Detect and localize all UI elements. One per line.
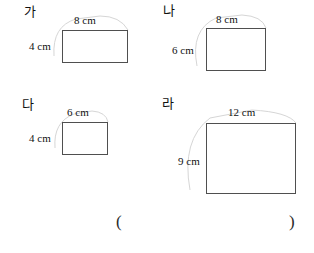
- figure-ra-label: 라: [162, 97, 174, 111]
- figure-na-rectangle: [206, 28, 266, 71]
- answer-blank-open-paren: (: [116, 213, 122, 231]
- figure-da-label: 다: [22, 98, 34, 112]
- figure-ga-width-label: 8 cm: [74, 14, 96, 26]
- figure-ga-height-label: 4 cm: [29, 40, 51, 52]
- worksheet-page: 가 8 cm 4 cm 나 8 cm 6 cm 다 6 cm 4 cm 라 12…: [0, 0, 314, 253]
- figure-ra-height-label: 9 cm: [178, 155, 200, 167]
- figure-da-width-label: 6 cm: [67, 106, 89, 118]
- figure-na-label: 나: [163, 4, 175, 18]
- figure-na-width-label: 8 cm: [216, 13, 238, 25]
- answer-blank-close-paren: ): [289, 213, 295, 231]
- figure-ga-label: 가: [24, 5, 36, 19]
- figure-da-height-label: 4 cm: [29, 132, 51, 144]
- figure-ra-width-label: 12 cm: [228, 106, 255, 118]
- figure-ra-rectangle: [206, 123, 296, 194]
- figure-ga-rectangle: [62, 30, 128, 63]
- figure-da-rectangle: [62, 122, 108, 155]
- figure-na-height-label: 6 cm: [172, 44, 194, 56]
